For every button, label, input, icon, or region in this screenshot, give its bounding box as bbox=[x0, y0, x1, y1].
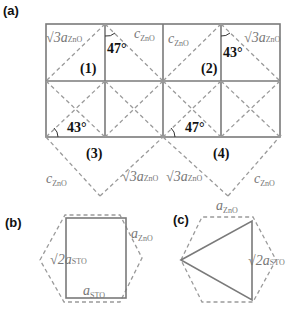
label-sqrt2a-sto-c: √2aSTO bbox=[248, 253, 285, 268]
svg-text:cZnO: cZnO bbox=[134, 26, 155, 43]
diagram-canvas: (a) 47° 43° 43° 47° (1) bbox=[0, 0, 300, 314]
panel-b-label: (b) bbox=[5, 215, 22, 230]
svg-text:√3aZnO: √3aZnO bbox=[122, 169, 159, 184]
angle-label-3: 43° bbox=[67, 120, 87, 135]
label-sqrt3a-top-left: √3aZnO bbox=[46, 30, 83, 45]
label-c-bottom-right: cZnO bbox=[254, 171, 275, 188]
svg-text:√3aZnO: √3aZnO bbox=[166, 169, 203, 184]
cell-label-3: (3) bbox=[86, 146, 103, 162]
label-a-sto-b: aSTO bbox=[83, 283, 105, 300]
cell-label-1: (1) bbox=[80, 61, 97, 77]
angle-label-1: 47° bbox=[107, 41, 127, 56]
svg-text:cZnO: cZnO bbox=[254, 171, 275, 188]
panel-c-label: (c) bbox=[173, 212, 189, 227]
label-sqrt2a-sto-b: √2aSTO bbox=[50, 252, 87, 267]
svg-text:√3aZnO: √3aZnO bbox=[46, 30, 83, 45]
angle-arc-2 bbox=[221, 33, 230, 36]
panel-a-label: (a) bbox=[3, 3, 19, 18]
angle-arc-1 bbox=[105, 33, 115, 36]
svg-text:aZnO: aZnO bbox=[131, 226, 153, 243]
svg-text:aZnO: aZnO bbox=[216, 198, 238, 215]
angle-arc-3 bbox=[54, 128, 58, 137]
svg-text:√3aZnO: √3aZnO bbox=[244, 30, 281, 45]
label-a-zno-b: aZnO bbox=[131, 226, 153, 243]
angle-label-4: 47° bbox=[185, 120, 205, 135]
label-c-bottom-left: cZnO bbox=[46, 171, 67, 188]
label-sqrt3a-top-right: √3aZnO bbox=[244, 30, 281, 45]
triangle-c bbox=[181, 221, 252, 300]
label-sqrt3a-bottom-mid2: √3aZnO bbox=[166, 169, 203, 184]
dashed-lattice bbox=[46, 24, 282, 196]
angle-arc-4 bbox=[171, 128, 175, 137]
label-c-top-mid: cZnO bbox=[134, 26, 155, 43]
svg-text:√2aSTO: √2aSTO bbox=[50, 252, 87, 267]
label-c-top-mid2: cZnO bbox=[168, 31, 189, 48]
label-sqrt3a-bottom-mid1: √3aZnO bbox=[122, 169, 159, 184]
angle-label-2: 43° bbox=[223, 45, 243, 60]
cell-label-4: (4) bbox=[213, 146, 230, 162]
cell-label-2: (2) bbox=[201, 61, 218, 77]
label-a-zno-c: aZnO bbox=[216, 198, 238, 215]
svg-text:√2aSTO: √2aSTO bbox=[248, 253, 285, 268]
svg-text:cZnO: cZnO bbox=[46, 171, 67, 188]
svg-text:aSTO: aSTO bbox=[83, 283, 105, 300]
svg-text:cZnO: cZnO bbox=[168, 31, 189, 48]
